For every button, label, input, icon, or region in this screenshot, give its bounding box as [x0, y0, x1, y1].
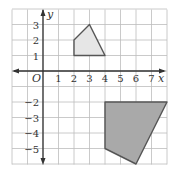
x-tick-label: 7 [148, 73, 154, 84]
y-axis-label: y [46, 8, 54, 21]
x-axis-label: x [158, 72, 165, 85]
x-tick-label: 6 [133, 73, 139, 84]
x-tick-label: 5 [117, 73, 123, 84]
origin-label: O [32, 72, 41, 85]
x-tick-label: 3 [86, 73, 92, 84]
y-tick-label: 1 [33, 51, 39, 62]
y-tick-label: −2 [24, 97, 39, 108]
x-tick-label: 1 [55, 73, 61, 84]
y-tick-label: −5 [24, 144, 39, 155]
x-tick-label: 4 [102, 73, 108, 84]
y-axis-up-arrow-icon [41, 9, 46, 16]
y-tick-label: −3 [24, 113, 39, 124]
y-tick-label: 3 [33, 20, 39, 31]
coordinate-plane: 1234567123−2−3−4−5 y x O [0, 0, 174, 180]
y-tick-label: −4 [24, 128, 39, 139]
y-tick-label: 2 [33, 35, 39, 46]
x-tick-label: 2 [71, 73, 77, 84]
x-axis-left-arrow-icon [12, 69, 19, 74]
